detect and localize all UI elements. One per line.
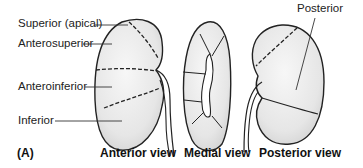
- label-superior-apical: Superior (apical): [18, 17, 102, 29]
- panel-label: (A): [17, 146, 34, 160]
- caption-anterior-view: Anterior view: [100, 146, 176, 160]
- label-inferior: Inferior: [18, 114, 54, 126]
- anterior-kidney: [95, 19, 174, 156]
- label-anterosuperior: Anterosuperior: [18, 37, 93, 49]
- caption-posterior-view: Posterior view: [259, 146, 341, 160]
- posterior-kidney: [244, 25, 324, 152]
- caption-medial-view: Medial view: [184, 146, 251, 160]
- label-posterior: Posterior: [297, 2, 343, 14]
- medial-kidney: [183, 22, 231, 151]
- label-anteroinferior: Anteroinferior: [18, 80, 87, 92]
